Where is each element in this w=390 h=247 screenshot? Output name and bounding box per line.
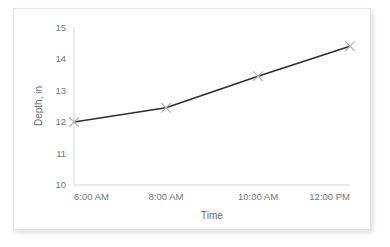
x-tick-label: 10:00 AM: [238, 191, 278, 202]
x-tick-label: 8:00 AM: [149, 191, 184, 202]
x-tick-label: 12:00 PM: [309, 191, 350, 202]
y-tick-label: 10: [55, 179, 66, 190]
y-axis-title: Depth, in: [33, 86, 44, 126]
y-tick-label: 15: [55, 22, 66, 33]
data-point-marker: [345, 41, 355, 51]
y-tick-label: 14: [55, 53, 66, 64]
y-tick-label: 13: [55, 85, 66, 96]
y-tick-label: 12: [55, 116, 66, 127]
x-tick-label: 6:00 AM: [74, 191, 109, 202]
chart-svg: 15 14 13 12 11 10 6:00 AM 8:00 AM 10:00 …: [14, 9, 372, 231]
y-tick-label: 11: [56, 148, 66, 159]
series-line-depth: [74, 46, 350, 122]
chart-card: 15 14 13 12 11 10 6:00 AM 8:00 AM 10:00 …: [13, 8, 371, 230]
x-axis-title: Time: [201, 210, 223, 221]
line-chart: 15 14 13 12 11 10 6:00 AM 8:00 AM 10:00 …: [14, 9, 372, 231]
data-point-marker: [253, 71, 263, 81]
